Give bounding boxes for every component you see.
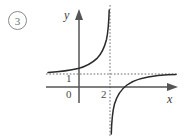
y-axis-arrowhead [75, 9, 83, 20]
choice-number-badge: 3 [8, 11, 27, 30]
graph-canvas [0, 0, 185, 138]
x-axis-arrowhead [167, 83, 178, 91]
figure-container: 3 y x 1 0 2 [0, 0, 185, 138]
tick-label-y-one: 1 [66, 72, 72, 84]
tick-label-x-two: 2 [101, 88, 107, 100]
x-axis-label: x [167, 92, 172, 107]
y-axis-label: y [64, 8, 69, 23]
tick-label-origin: 0 [66, 88, 72, 100]
